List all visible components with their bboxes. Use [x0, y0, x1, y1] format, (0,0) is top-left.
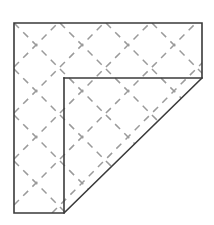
figure-container: Folded paper crease pattern L-shaped (he…	[0, 0, 214, 225]
crease-pattern-diagram: Folded paper crease pattern L-shaped (he…	[0, 0, 214, 225]
crease-up-right-7	[144, 153, 204, 213]
